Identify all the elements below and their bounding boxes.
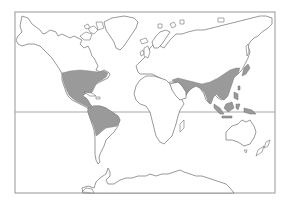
new-zealand-south	[256, 146, 264, 156]
shaded-north-america	[62, 70, 108, 107]
greenland	[104, 16, 138, 50]
shaded-sulawesi	[236, 104, 240, 110]
antarctica	[82, 168, 234, 193]
tasmania	[244, 150, 247, 153]
world-map	[0, 0, 291, 208]
ireland	[140, 50, 144, 56]
caribbean-island	[96, 97, 100, 99]
arctic-island	[80, 32, 92, 40]
world-map-svg	[0, 0, 291, 208]
arctic-island	[218, 18, 224, 22]
shaded-new-guinea	[244, 108, 256, 114]
australia	[226, 120, 256, 146]
cuba	[84, 92, 96, 96]
shaded-philippines	[234, 92, 238, 100]
iceland	[140, 38, 148, 44]
shaded-borneo	[224, 102, 234, 112]
new-zealand-north	[264, 140, 270, 148]
madagascar	[180, 120, 184, 132]
shaded-java	[222, 116, 232, 118]
arctic-island	[84, 24, 90, 29]
arctic-island	[158, 24, 162, 28]
shaded-taiwan	[238, 86, 240, 90]
arctic-island	[180, 20, 184, 24]
arctic-island	[170, 22, 176, 28]
